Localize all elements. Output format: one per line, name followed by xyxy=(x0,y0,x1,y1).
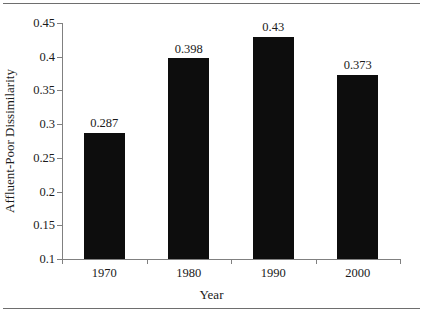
bar-value-label: 0.287 xyxy=(90,117,118,130)
x-tick-mark xyxy=(147,259,148,264)
y-tick-mark xyxy=(57,57,62,58)
x-axis-title: Year xyxy=(0,288,423,301)
y-tick-label: 0.45 xyxy=(33,17,55,30)
x-tick-mark xyxy=(400,259,401,264)
y-tick-mark xyxy=(57,23,62,24)
y-tick-label: 0.1 xyxy=(39,253,55,266)
figure-bottom-rule xyxy=(3,308,420,309)
y-tick-mark xyxy=(57,158,62,159)
x-tick-label: 1990 xyxy=(261,267,286,280)
bar[interactable]: 0.43 xyxy=(253,37,294,260)
bar[interactable]: 0.398 xyxy=(168,58,209,259)
x-tick-mark xyxy=(316,259,317,264)
bar[interactable]: 0.373 xyxy=(337,75,378,259)
figure: 0.10.150.20.250.30.350.40.450.2870.3980.… xyxy=(0,0,423,321)
y-tick-label: 0.3 xyxy=(39,118,55,131)
x-tick-label: 2000 xyxy=(345,267,370,280)
x-tick-mark xyxy=(231,259,232,264)
plot-area: 0.10.150.20.250.30.350.40.450.2870.3980.… xyxy=(62,23,400,259)
y-axis-title: Affluent-Poor Dissimilarity xyxy=(3,69,16,213)
y-tick-label: 0.4 xyxy=(39,50,55,63)
y-tick-label: 0.35 xyxy=(33,84,55,97)
y-tick-mark xyxy=(57,90,62,91)
bar-value-label: 0.43 xyxy=(262,21,284,34)
x-tick-label: 1970 xyxy=(92,267,117,280)
x-tick-label: 1980 xyxy=(176,267,201,280)
y-tick-label: 0.15 xyxy=(33,219,55,232)
y-tick-label: 0.2 xyxy=(39,185,55,198)
y-tick-mark xyxy=(57,192,62,193)
bar[interactable]: 0.287 xyxy=(84,133,125,259)
y-tick-mark xyxy=(57,124,62,125)
x-tick-mark xyxy=(62,259,63,264)
figure-top-rule xyxy=(3,3,420,4)
bar-value-label: 0.373 xyxy=(344,59,372,72)
bar-value-label: 0.398 xyxy=(175,43,203,56)
y-tick-mark xyxy=(57,225,62,226)
y-tick-label: 0.25 xyxy=(33,152,55,165)
